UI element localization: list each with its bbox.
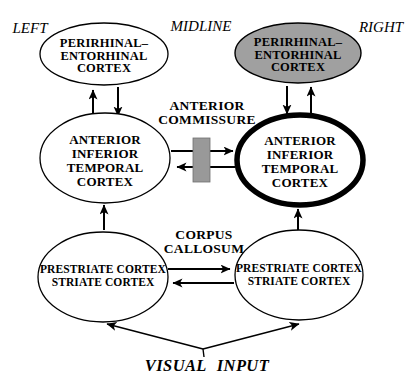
node-left-anterior-inferior-temporal-cortex: ANTERIOR INFERIOR TEMPORAL CORTEX: [40, 113, 170, 203]
node-label-line: PRESTRIATE CORTEX: [236, 262, 363, 274]
node-label-line: INFERIOR: [72, 146, 139, 161]
connector-label-line: CALLOSUM: [164, 241, 244, 256]
corpus-callosum-label: CORPUS CALLOSUM: [164, 227, 244, 256]
brain-pathway-diagram: LEFT MIDLINE RIGHT: [0, 0, 418, 385]
anterior-commissure-bar: [193, 138, 210, 182]
corpus-callosum-arrows: [168, 269, 234, 283]
connector-label-line: COMMISSURE: [158, 112, 256, 127]
connector-label-line: CORPUS: [175, 227, 232, 242]
orientation-label-right: RIGHT: [358, 19, 405, 35]
right-perirhinal-ait-arrows: [287, 86, 311, 116]
node-label-line: INFERIOR: [267, 147, 334, 162]
node-label-line: CORTEX: [271, 60, 325, 74]
node-label-line: CORTEX: [77, 174, 134, 189]
node-right-perirhinal-entorhinal-cortex: PERIRHINAL– ENTORHINAL CORTEX: [235, 23, 361, 83]
node-label-line: TEMPORAL: [67, 160, 144, 175]
node-label-line: TEMPORAL: [262, 161, 339, 176]
node-label-line: ANTERIOR: [264, 133, 336, 148]
orientation-label-midline: MIDLINE: [170, 18, 232, 34]
node-left-prestriate-striate-cortex: PRESTRIATE CORTEX STRIATE CORTEX: [38, 232, 168, 322]
node-label-line: CORTEX: [272, 175, 329, 190]
node-label-line: PRESTRIATE CORTEX: [40, 263, 167, 275]
figure-canvas: LEFT MIDLINE RIGHT: [0, 0, 418, 385]
node-right-prestriate-striate-cortex: PRESTRIATE CORTEX STRIATE CORTEX: [235, 230, 363, 320]
visual-input-label: VISUAL INPUT: [145, 356, 270, 375]
orientation-label-left: LEFT: [11, 20, 49, 36]
node-right-anterior-inferior-temporal-cortex: ANTERIOR INFERIOR TEMPORAL CORTEX: [237, 115, 363, 205]
anterior-commissure-label: ANTERIOR COMMISSURE: [158, 98, 256, 127]
node-label-line: CORTEX: [77, 61, 131, 75]
node-left-perirhinal-entorhinal-cortex: PERIRHINAL– ENTORHINAL CORTEX: [40, 23, 168, 85]
visual-input-arrows: [107, 324, 299, 357]
node-label-line: ANTERIOR: [69, 132, 141, 147]
node-label-line: STRIATE CORTEX: [248, 275, 351, 287]
node-label-line: STRIATE CORTEX: [52, 276, 155, 288]
connector-label-line: ANTERIOR: [169, 98, 244, 113]
